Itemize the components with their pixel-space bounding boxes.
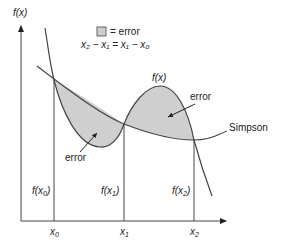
simpson-error-diagram: f(x) = error x₂ − x₁ = x₁ − x₀ f(x) Simp… [0,0,281,246]
legend-error-label: = error [110,26,140,37]
function-label: f(x) [152,72,166,83]
error-region-right [124,86,194,140]
error-label-left: error [65,152,87,163]
simpson-label: Simpson [229,122,268,133]
ordinate-label-x1: f(x1) [101,185,119,197]
y-axis-label: f(x) [13,7,27,18]
error-region-left [54,80,124,147]
legend-equation: x₂ − x₁ = x₁ − x₀ [80,39,150,50]
error-label-right: error [190,91,212,102]
simpson-leader [220,131,227,134]
ordinate-label-x2: f(x2) [172,185,190,197]
x-tick-x0: x0 [49,226,59,238]
legend-swatch [97,27,106,36]
x-tick-x2: x2 [189,226,199,238]
ordinate-label-x0: f(x0) [32,185,50,197]
x-tick-x1: x1 [119,226,129,238]
